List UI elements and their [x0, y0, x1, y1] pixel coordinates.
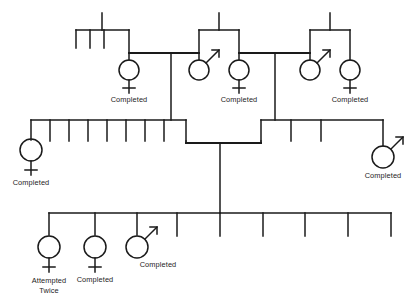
label-g1-mid-female: Completed [209, 96, 269, 105]
label-g3-female-2: Completed [65, 276, 125, 285]
label-g1-right-female: Completed [320, 96, 380, 105]
g3-male-1-arrow-shaft [145, 227, 157, 239]
g1-mid-female-circle [229, 60, 249, 80]
pedigree-diagram-svg [0, 0, 415, 306]
g1-right-female-circle [340, 60, 360, 80]
g2-sibship-left [20, 120, 186, 175]
g2-marriage-line-group [186, 141, 261, 143]
g3-female-1-circle [38, 236, 60, 258]
pedigree-chart: Completed Completed Completed Completed … [0, 0, 415, 306]
g3-sibship [38, 213, 391, 272]
g3-female-2-circle [84, 236, 106, 258]
label-g3-male-1: Completed [128, 261, 188, 270]
g2-left-female-circle [20, 139, 42, 161]
g1-left-female-circle [119, 60, 139, 80]
label-g2-right-male: Completed [353, 172, 413, 181]
label-g2-left-female: Completed [1, 179, 61, 188]
g1-mid-male-arrow-shaft [206, 50, 219, 63]
label-g1-left-female: Completed [99, 96, 159, 105]
g2-right-male-arrow-shaft [391, 137, 403, 149]
g1-right-male-arrow-shaft [317, 50, 330, 63]
g2-sibship-right [261, 120, 403, 168]
label-g3-female-1-line2: Twice [19, 286, 79, 295]
g1-to-g2-descent [171, 53, 275, 120]
